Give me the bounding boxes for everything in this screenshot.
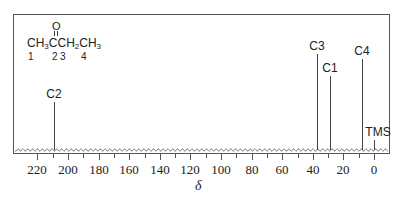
x-tick <box>145 154 146 158</box>
x-tick <box>68 154 69 160</box>
x-tick <box>129 154 130 160</box>
x-tick-label: 40 <box>307 162 320 178</box>
peak-c3 <box>317 54 318 150</box>
x-tick-label: 20 <box>337 162 350 178</box>
x-tick-label: 80 <box>246 162 259 178</box>
x-tick <box>114 154 115 158</box>
x-tick <box>313 154 314 160</box>
x-tick-label: 120 <box>180 162 200 178</box>
x-tick <box>83 154 84 158</box>
x-tick <box>359 154 360 158</box>
x-tick-label: 140 <box>150 162 170 178</box>
peak-label-c4: C4 <box>354 44 369 58</box>
x-tick <box>206 154 207 158</box>
x-tick <box>221 154 222 160</box>
x-tick <box>252 154 253 160</box>
x-tick-label: 220 <box>27 162 47 178</box>
x-tick <box>37 154 38 160</box>
peak-label-c1: C1 <box>322 61 337 75</box>
x-tick <box>282 154 283 160</box>
x-tick <box>53 154 54 158</box>
peak-c1 <box>330 76 331 150</box>
x-tick <box>343 154 344 160</box>
x-tick-label: 200 <box>58 162 78 178</box>
peak-label-tms: TMS <box>365 125 390 139</box>
peak-c4 <box>362 59 363 150</box>
nmr-spectrum-chart: O CH3CCH2CH3 1 2 3 4 C2C3C1C4TMS 2202001… <box>0 0 402 202</box>
x-tick <box>374 154 375 160</box>
x-tick <box>328 154 329 158</box>
x-tick-label: 160 <box>119 162 139 178</box>
x-axis-label: δ <box>195 178 202 194</box>
peak-c2 <box>54 102 55 150</box>
x-tick <box>298 154 299 158</box>
x-tick <box>190 154 191 160</box>
peak-label-c2: C2 <box>46 87 61 101</box>
x-tick <box>175 154 176 158</box>
x-tick <box>99 154 100 160</box>
x-tick <box>236 154 237 158</box>
x-tick-label: 100 <box>211 162 231 178</box>
x-tick-label: 60 <box>276 162 289 178</box>
peak-label-c3: C3 <box>309 39 324 53</box>
x-tick-label: 0 <box>371 162 378 178</box>
peak-tms <box>374 140 375 150</box>
x-tick-label: 180 <box>89 162 109 178</box>
x-tick <box>160 154 161 160</box>
x-tick <box>267 154 268 158</box>
